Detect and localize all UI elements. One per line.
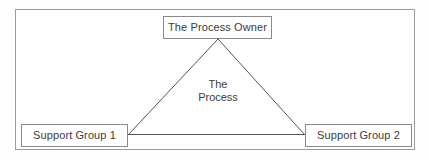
node-process-owner[interactable]: The Process Owner	[163, 16, 272, 39]
node-support-group-1[interactable]: Support Group 1	[21, 124, 128, 147]
center-label-line-2: Process	[173, 91, 263, 104]
center-label-line-1: The	[173, 78, 263, 91]
center-label-the-process: The Process	[173, 78, 263, 104]
diagram-canvas: The Process Owner Support Group 1 Suppor…	[0, 0, 429, 160]
node-support-group-2[interactable]: Support Group 2	[305, 124, 412, 147]
